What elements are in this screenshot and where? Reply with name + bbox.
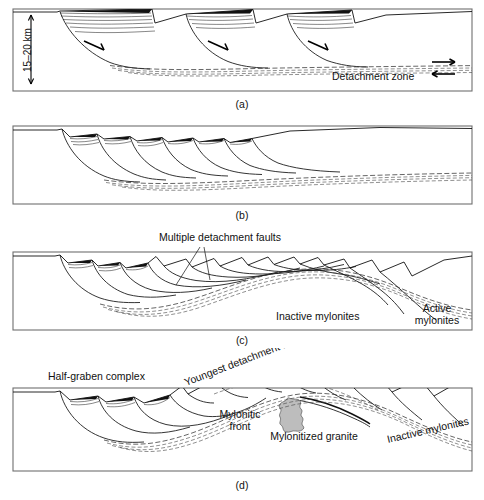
panel-a: 15–20 km Detachment zone (a): [0, 0, 484, 118]
panel-a-caption: (a): [236, 98, 249, 110]
youngest-detachment-fault-label: Youngest detachment fault: [182, 348, 302, 388]
panel-b: (b): [0, 118, 484, 226]
panel-d: Half-graben complex Youngest detachment …: [0, 348, 484, 500]
panel-b-frame: [13, 126, 472, 204]
mylonitized-granite-body: [279, 398, 304, 432]
inactive-mylonites-label: Inactive mylonites: [276, 310, 359, 322]
mylonitic-front-label-line2: front: [229, 420, 250, 432]
depth-scale-label: 15–20 km: [22, 28, 33, 72]
mylonitic-front-label-line1: Mylonitic: [220, 408, 261, 420]
panel-b-caption: (b): [236, 209, 249, 221]
active-mylonites-label-line2: mylonites: [415, 314, 459, 326]
half-graben-complex-label: Half-graben complex: [48, 370, 146, 382]
panel-c-caption: (c): [236, 334, 248, 346]
mylonitized-granite-label: Mylonitized granite: [270, 430, 358, 442]
panel-d-caption: (d): [236, 479, 249, 491]
multiple-detachment-faults-label: Multiple detachment faults: [159, 231, 281, 243]
figure-root: 15–20 km Detachment zone (a): [0, 0, 484, 500]
panel-c-frame: [13, 252, 472, 330]
active-mylonites-label-line1: Active: [423, 302, 452, 314]
panel-c: Multiple detachment faults Inactive mylo…: [0, 226, 484, 348]
detachment-zone-label: Detachment zone: [332, 70, 414, 82]
